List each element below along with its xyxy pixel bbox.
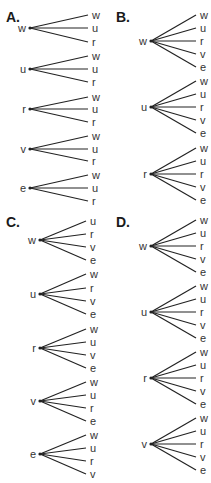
leaf-node-label: r [200, 240, 204, 252]
branch-line [151, 286, 196, 312]
leaf-node-label: r [92, 76, 96, 88]
branch-line [151, 41, 196, 54]
tree-branch-group: uwurve [141, 280, 208, 344]
root-node-label: r [22, 103, 26, 115]
panel-b: B.wwurveuwurverwurve [116, 9, 208, 206]
leaf-node-label: e [200, 464, 206, 476]
leaf-node-label: v [90, 468, 96, 480]
panel-label: B. [116, 9, 130, 25]
leaf-node-label: w [89, 376, 98, 388]
tree-branch-group: uwurve [141, 75, 208, 139]
leaf-node-label: u [92, 143, 98, 155]
leaf-node-label: r [92, 116, 96, 128]
branch-line [151, 365, 196, 378]
leaf-node-label: w [199, 75, 208, 87]
leaf-node-label: r [200, 438, 204, 450]
leaf-node-label: v [90, 241, 96, 253]
branch-line [30, 136, 88, 149]
leaf-node-label: w [91, 169, 100, 181]
root-node-label: v [142, 438, 148, 450]
leaf-node-label: r [90, 402, 94, 414]
leaf-node-label: v [200, 48, 206, 60]
branch-line [151, 431, 196, 444]
leaf-node-label: e [200, 127, 206, 139]
tree-branch-group: wwur [17, 9, 100, 48]
branch-line [30, 188, 88, 201]
tree-branch-group: rwur [22, 91, 100, 128]
root-node-label: v [21, 143, 27, 155]
branch-line [151, 418, 196, 444]
leaf-node-label: e [200, 332, 206, 344]
root-node-label: u [141, 101, 147, 113]
leaf-node-label: u [90, 215, 96, 227]
root-node-label: e [30, 448, 36, 460]
root-node-label: r [143, 372, 147, 384]
leaf-node-label: u [200, 22, 206, 34]
panel-d: D.wwurveuwurverwurvevwurve [116, 214, 208, 476]
branch-line [151, 81, 196, 107]
leaf-node-label: u [92, 22, 98, 34]
root-node-label: w [17, 22, 26, 34]
branch-line [151, 352, 196, 378]
branch-line [151, 174, 196, 187]
leaf-node-label: u [90, 389, 96, 401]
branch-line [151, 444, 196, 457]
leaf-node-label: w [89, 268, 98, 280]
branch-line [151, 299, 196, 312]
root-node-label: w [138, 240, 147, 252]
panel-label: D. [116, 214, 130, 230]
leaf-node-label: w [91, 130, 100, 142]
branch-line [151, 233, 196, 246]
leaf-node-label: w [91, 9, 100, 21]
root-node-label: r [32, 342, 36, 354]
panel-c: C.wurveuwrverwuvevwureewurv [6, 214, 98, 480]
leaf-node-label: u [90, 336, 96, 348]
leaf-node-label: w [89, 323, 98, 335]
leaf-node-label: v [200, 319, 206, 331]
leaf-node-label: r [200, 306, 204, 318]
tree-branch-group: vwure [31, 376, 99, 427]
tree-diagrams-figure: A.wwuruwurrwurvwurewurB.wwurveuwurverwur… [0, 0, 211, 483]
leaf-node-label: e [90, 362, 96, 374]
tree-branch-group: uwrve [30, 268, 98, 320]
tree-branch-group: ewurv [30, 429, 98, 480]
leaf-node-label: e [200, 61, 206, 73]
root-node-label: v [31, 395, 37, 407]
tree-branch-group: wwurve [138, 9, 208, 73]
branch-line [30, 149, 88, 161]
branch-line [151, 41, 196, 67]
root-node-label: w [138, 35, 147, 47]
leaf-node-label: v [90, 295, 96, 307]
branch-line [151, 312, 196, 325]
branch-line [151, 161, 196, 174]
leaf-node-label: v [200, 181, 206, 193]
branch-line [151, 148, 196, 174]
leaf-node-label: w [89, 429, 98, 441]
root-node-label: w [27, 234, 36, 246]
leaf-node-label: u [92, 63, 98, 75]
leaf-node-label: w [199, 9, 208, 21]
branch-line [30, 175, 88, 188]
branch-line [151, 174, 196, 200]
root-node-label: e [20, 182, 26, 194]
root-node-label: u [30, 288, 36, 300]
leaf-node-label: r [200, 372, 204, 384]
leaf-node-label: u [90, 442, 96, 454]
leaf-node-label: r [92, 195, 96, 207]
leaf-node-label: e [200, 266, 206, 278]
root-node-label: r [143, 168, 147, 180]
leaf-node-label: e [90, 308, 96, 320]
tree-branch-group: vwur [21, 130, 101, 167]
leaf-node-label: u [92, 103, 98, 115]
leaf-node-label: e [90, 254, 96, 266]
tree-branch-group: wurve [27, 215, 96, 266]
leaf-node-label: u [200, 155, 206, 167]
leaf-node-label: w [91, 91, 100, 103]
leaf-node-label: v [200, 385, 206, 397]
branch-line [30, 109, 88, 122]
leaf-node-label: w [199, 280, 208, 292]
branch-line [151, 107, 196, 133]
tree-branch-group: vwurve [142, 412, 209, 476]
branch-line [30, 28, 88, 42]
leaf-node-label: r [92, 36, 96, 48]
